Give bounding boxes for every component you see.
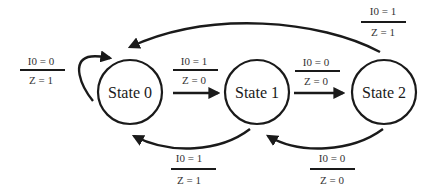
state-node-2: State 2 [352,60,416,124]
transition-s2-s0: I0 = 1 Z = 1 [130,5,406,52]
transition-input-label: I0 = 1 [181,55,207,67]
transition-input-label: I0 = 1 [176,152,202,164]
curved-arrow-icon [134,129,250,148]
transition-output-label: Z = 0 [182,74,206,86]
state-diagram: I0 = 0 Z = 1 I0 = 1 Z = 0 I0 = 0 Z = 0 I… [0,0,432,195]
state-label: State 2 [362,84,406,101]
state-node-1: State 1 [225,60,289,124]
transition-output-label: Z = 1 [371,26,395,38]
transition-output-label: Z = 1 [177,174,201,186]
transition-output-label: Z = 0 [304,75,328,87]
state-node-0: State 0 [98,60,162,124]
state-label: State 1 [235,84,279,101]
curved-arrow-icon [268,129,383,148]
transition-input-label: I0 = 1 [370,5,396,17]
transition-input-label: I0 = 0 [303,56,330,68]
transition-s0-s0: I0 = 0 Z = 1 [20,55,110,101]
transition-s1-s2: I0 = 0 Z = 0 [294,56,343,93]
transition-output-label: Z = 1 [29,74,53,86]
transition-input-label: I0 = 0 [319,152,346,164]
transition-s1-s0: I0 = 1 Z = 1 [134,129,250,186]
curved-arrow-icon [130,23,380,52]
transition-output-label: Z = 0 [320,174,344,186]
transition-input-label: I0 = 0 [28,55,55,67]
transition-s0-s1: I0 = 1 Z = 0 [173,55,218,93]
state-label: State 0 [108,84,152,101]
transition-s2-s1: I0 = 0 Z = 0 [268,129,383,186]
